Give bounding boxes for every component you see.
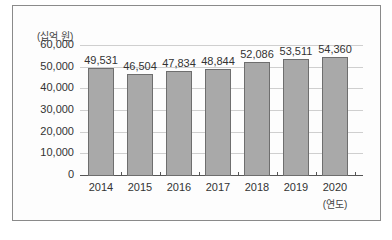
bar-2017	[205, 69, 231, 176]
bar-2020	[322, 57, 348, 176]
x-tick-mark	[199, 172, 200, 175]
x-tick-mark	[160, 172, 161, 175]
bar-2014	[88, 68, 114, 176]
bar-2015	[127, 74, 153, 176]
x-tick-mark	[355, 172, 356, 175]
y-tick-label: 50,000	[12, 60, 74, 72]
y-tick-label: 10,000	[12, 146, 74, 158]
bar-2018	[244, 62, 270, 176]
y-tick-label: 30,000	[12, 103, 74, 115]
y-tick-label: 60,000	[12, 38, 74, 50]
y-tick-label: 40,000	[12, 81, 74, 93]
x-tick-mark	[277, 172, 278, 175]
y-tick-label: 0	[12, 168, 74, 180]
y-tick-label: 20,000	[12, 125, 74, 137]
x-tick-mark	[121, 172, 122, 175]
x-tick-label-2020: 2020	[310, 181, 360, 193]
value-label-2020: 54,360	[310, 43, 360, 55]
x-axis-unit-label: (연도)	[310, 196, 360, 211]
x-tick-mark	[238, 172, 239, 175]
bar-2016	[166, 71, 192, 176]
bar-2019	[283, 59, 309, 176]
x-tick-mark	[316, 172, 317, 175]
